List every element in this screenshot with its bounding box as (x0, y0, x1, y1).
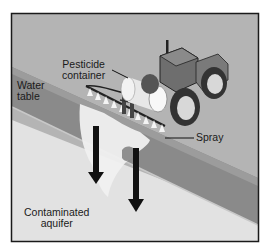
contaminated-aquifer-label: Contaminated aquifer (24, 207, 89, 229)
label-line: table (17, 91, 45, 102)
pesticide-container-label: Pesticide container (62, 59, 105, 81)
label-line: container (62, 70, 105, 81)
water-table-label: Water table (17, 80, 45, 102)
label-line: aquifer (24, 218, 89, 229)
spray-label: Spray (196, 132, 223, 143)
